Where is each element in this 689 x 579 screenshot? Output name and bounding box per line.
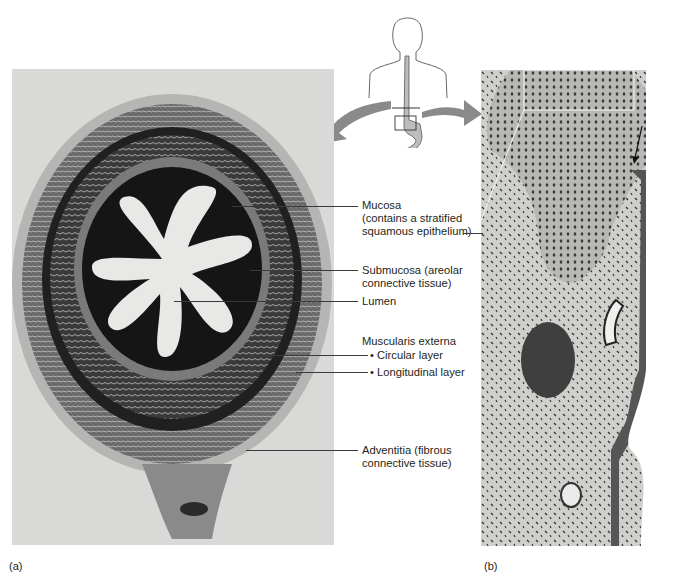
leader-submucosa [250, 270, 358, 271]
micrograph-panel-b [481, 70, 646, 546]
label-submucosa: Submucosa (areolar connective tissue) [362, 264, 463, 290]
label-muscularis-externa: Muscularis externa [362, 335, 456, 348]
leader-longitudinal [296, 372, 368, 373]
label-circular-layer: • Circular layer [370, 349, 443, 362]
label-lumen: Lumen [362, 295, 396, 308]
label-longitudinal-layer: • Longitudinal layer [370, 366, 465, 379]
label-mucosa: Mucosa (contains a stratified squamous e… [362, 199, 471, 239]
epithelium-arrow-icon [631, 126, 645, 166]
leader-adventitia [246, 450, 358, 451]
leader-circular [258, 355, 368, 356]
label-adventitia: Adventitia (fibrous connective tissue) [362, 444, 452, 470]
panel-a-tag: (a) [9, 560, 22, 572]
panel-b-tag: (b) [484, 560, 497, 572]
micrograph-panel-a [12, 69, 334, 545]
leader-lumen [174, 301, 358, 302]
leader-mucosa [232, 206, 358, 207]
leader-mucosa-b [463, 233, 483, 234]
arrow-to-panel-b [420, 96, 482, 130]
